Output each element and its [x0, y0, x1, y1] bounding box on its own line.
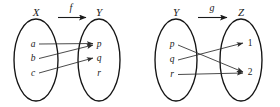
mapping-arrow-b-to-p [39, 45, 93, 59]
mapping-arrow-c-to-q [39, 58, 93, 73]
element-z-2: 2 [248, 67, 253, 77]
set-label-x: X [32, 6, 41, 18]
panel-f: X Y f a b c p q r [14, 2, 120, 101]
element-y-r2: r [170, 69, 174, 79]
element-x-a: a [31, 39, 36, 49]
element-x-b: b [31, 53, 36, 63]
panel-g: Y Z g p q r 1 2 [155, 2, 262, 101]
mapping-arrow-p-to-2 [178, 45, 243, 72]
set-label-z: Z [238, 6, 245, 18]
element-y-r: r [97, 68, 101, 78]
element-y-q2: q [170, 54, 175, 64]
element-y-p: p [96, 39, 102, 49]
set-label-y: Y [96, 6, 104, 18]
element-x-c: c [31, 68, 36, 78]
element-y-q: q [97, 53, 102, 63]
domain-oval-x [14, 19, 58, 101]
domain-oval-y [155, 19, 197, 101]
mapping-arrow-q-to-1 [178, 43, 243, 60]
element-z-1: 1 [248, 38, 253, 48]
codomain-oval-z [220, 19, 262, 101]
element-y-p2: p [169, 39, 175, 49]
set-label-y2: Y [173, 6, 181, 18]
mapping-arrow-r-to-2 [178, 73, 243, 75]
mapping-arrow-a-to-p [39, 44, 93, 45]
function-label-g: g [210, 2, 215, 13]
function-diagram-figure: X Y f a b c p q r Y Z [0, 0, 280, 107]
function-label-f: f [70, 2, 74, 13]
diagram-canvas: X Y f a b c p q r Y Z [0, 0, 280, 107]
